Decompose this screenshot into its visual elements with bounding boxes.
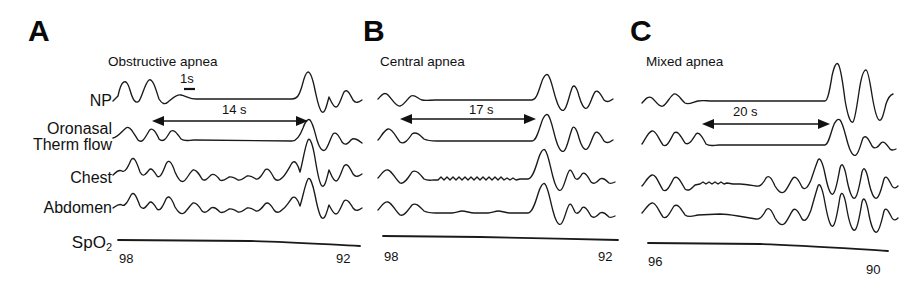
trace-np-c bbox=[642, 64, 893, 123]
trace-chest-c bbox=[642, 159, 898, 198]
trace-abdomen-c bbox=[642, 185, 898, 233]
panel-c-traces bbox=[0, 0, 901, 283]
duration-arrow-head-right-c bbox=[818, 119, 830, 129]
apnea-figure: NP Oronasal Therm flow Chest Abdomen SpO… bbox=[0, 0, 901, 283]
trace-oronasal-c bbox=[642, 119, 896, 155]
duration-arrow-head-left-c bbox=[702, 119, 714, 129]
trace-spo2-c bbox=[648, 243, 888, 251]
